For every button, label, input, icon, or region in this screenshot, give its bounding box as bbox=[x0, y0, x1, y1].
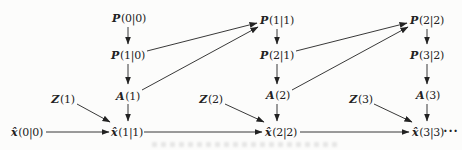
kalman-filter-flow-diagram: P(0|0) P(1|0) A(1) Z(1) x̂(0|0) x̂(1|1) … bbox=[0, 0, 462, 150]
edge-z1-x11 bbox=[77, 104, 110, 122]
cropped-caption-fragment bbox=[152, 142, 338, 147]
node-args: (2) bbox=[275, 89, 290, 102]
node-args: (1|1) bbox=[118, 126, 143, 139]
node-symbol: A bbox=[266, 89, 275, 102]
node-xhat-2-2: x̂(2|2) bbox=[265, 127, 297, 138]
node-symbol: P bbox=[112, 12, 121, 25]
node-symbol: A bbox=[116, 90, 125, 103]
node-P-3-2: P(3|2) bbox=[410, 50, 444, 61]
node-P-1-0: P(1|0) bbox=[111, 50, 145, 61]
node-args: (2|1) bbox=[269, 49, 294, 62]
node-A-1: A(1) bbox=[116, 91, 140, 102]
node-P-2-1: P(2|1) bbox=[260, 50, 294, 61]
edge-a2-p22 bbox=[292, 27, 408, 90]
node-args: (0|0) bbox=[121, 12, 146, 25]
node-symbol: Z bbox=[51, 93, 60, 106]
node-symbol: Z bbox=[349, 93, 358, 106]
continuation-ellipsis: ··· bbox=[443, 124, 459, 138]
node-args: (1) bbox=[125, 90, 140, 103]
node-xhat-1-1: x̂(1|1) bbox=[111, 127, 143, 138]
node-symbol: P bbox=[410, 14, 419, 27]
node-xhat-0-0: x̂(0|0) bbox=[11, 127, 43, 138]
node-symbol: P bbox=[260, 14, 269, 27]
node-args: (0|0) bbox=[18, 126, 43, 139]
node-args: (1) bbox=[60, 93, 75, 106]
node-args: (3|3) bbox=[419, 126, 444, 139]
node-symbol: P bbox=[111, 49, 120, 62]
node-Z-2: Z(2) bbox=[199, 94, 222, 105]
node-Z-1: Z(1) bbox=[51, 94, 74, 105]
node-args: (1|1) bbox=[269, 14, 294, 27]
edge-z2-x22 bbox=[225, 104, 264, 122]
node-args: (3) bbox=[425, 89, 440, 102]
node-P-0-0: P(0|0) bbox=[112, 13, 146, 24]
node-args: (3) bbox=[358, 93, 373, 106]
node-Z-3: Z(3) bbox=[349, 94, 372, 105]
node-symbol: P bbox=[260, 49, 269, 62]
diagram-arrows-layer bbox=[0, 0, 462, 150]
node-xhat-3-3: x̂(3|3) bbox=[412, 127, 444, 138]
node-symbol: P bbox=[410, 49, 419, 62]
node-symbol: A bbox=[416, 89, 425, 102]
node-args: (2) bbox=[208, 93, 223, 106]
node-args: (3|2) bbox=[419, 49, 444, 62]
node-args: (2|2) bbox=[419, 14, 444, 27]
node-args: (1|0) bbox=[120, 49, 145, 62]
node-args: (2|2) bbox=[272, 126, 297, 139]
node-P-1-1: P(1|1) bbox=[260, 15, 294, 26]
node-A-3: A(3) bbox=[416, 90, 440, 101]
edge-z3-x33 bbox=[374, 104, 412, 122]
edge-a1-p11 bbox=[142, 27, 258, 90]
node-symbol: Z bbox=[199, 93, 208, 106]
node-P-2-2: P(2|2) bbox=[410, 15, 444, 26]
node-A-2: A(2) bbox=[266, 90, 290, 101]
